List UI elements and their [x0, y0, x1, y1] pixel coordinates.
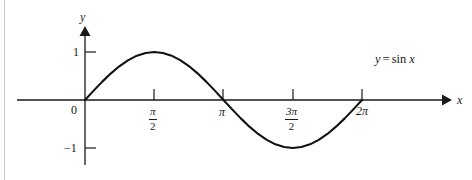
x-tick-label-three-pi-over-two: 3π 2: [284, 106, 299, 132]
y-axis-label: y: [80, 11, 85, 23]
y-tick-label-negative-one: −1: [64, 142, 77, 154]
x-tick-label-pi: π: [219, 106, 225, 118]
x-axis-label: x: [457, 94, 462, 106]
x-tick-label-two-pi: 2π: [356, 105, 368, 117]
fraction-numerator: 3π: [284, 106, 299, 119]
equation-lhs: y: [375, 52, 381, 66]
equation-function: sin: [392, 52, 407, 66]
equation-argument: x: [409, 52, 415, 66]
origin-label: 0: [71, 104, 77, 116]
y-tick-label-one: 1: [73, 46, 79, 58]
equation-annotation: y=sin x: [375, 52, 415, 67]
y-axis-arrowhead: [80, 26, 91, 36]
fraction-numerator: π: [148, 106, 158, 119]
x-tick-label-pi-over-two: π 2: [148, 106, 158, 132]
equation-operator: =: [381, 52, 392, 66]
fraction-denominator: 2: [148, 120, 158, 133]
fraction-denominator: 2: [284, 120, 299, 133]
sine-curve-figure: y x 0 1 −1 π 2 π 3π 2 2π y=sin x: [0, 0, 472, 180]
x-axis-arrowhead: [442, 95, 452, 106]
